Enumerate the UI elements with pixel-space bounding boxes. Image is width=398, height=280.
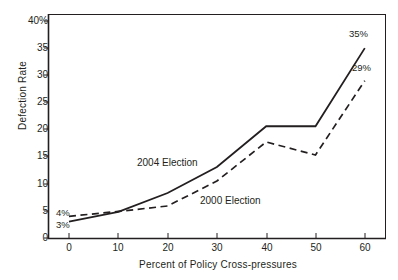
y-tick-0: 0 <box>14 233 48 243</box>
y-tick-40: 40% <box>14 16 48 26</box>
annotation-4-percent: 4% <box>56 208 70 218</box>
annotation-35-percent: 35% <box>349 29 368 39</box>
chart-canvas <box>0 0 398 280</box>
y-tick-5: 5 <box>14 206 48 216</box>
x-tick-20: 20 <box>148 243 188 253</box>
annotation-29-percent: 29% <box>352 63 371 73</box>
y-tick-10: 10 <box>14 179 48 189</box>
series-label-2000: 2000 Election <box>200 196 261 206</box>
y-tick-labels: 40% 35 30 25 20 15 10 5 0 <box>8 0 48 280</box>
x-tick-60: 60 <box>345 243 385 253</box>
x-tick-40: 40 <box>247 243 287 253</box>
x-tick-50: 50 <box>296 243 336 253</box>
x-tick-30: 30 <box>197 243 237 253</box>
annotation-3-percent: 3% <box>56 220 70 230</box>
chart-container: 40% 35 30 25 20 15 10 5 0 0 10 20 30 40 … <box>0 0 398 280</box>
series-label-2004: 2004 Election <box>137 158 198 168</box>
y-axis-title: Defection Rate <box>17 36 28 156</box>
x-tick-10: 10 <box>98 243 138 253</box>
x-tick-0: 0 <box>49 243 89 253</box>
x-tick-marks <box>69 233 365 238</box>
x-axis-title: Percent of Policy Cross-pressures <box>48 259 388 270</box>
